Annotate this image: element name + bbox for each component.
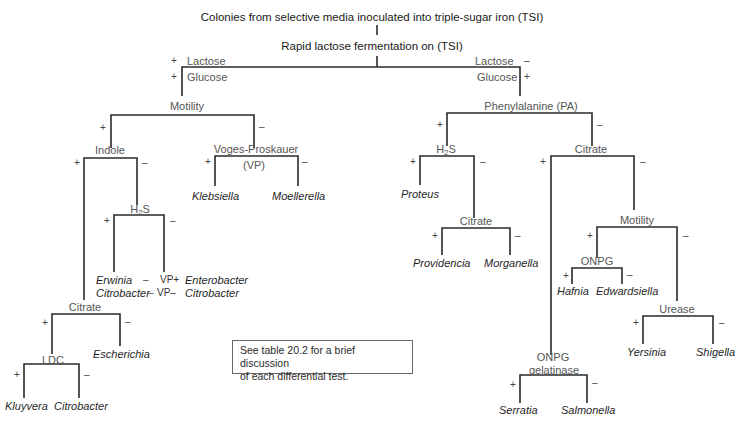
lactose-plus-sign: + — [171, 55, 177, 67]
vp-abbrev-label: (VP) — [243, 159, 265, 171]
vp-plus-sign: + — [205, 156, 211, 168]
glucose-plus-sign-right: + — [524, 71, 530, 83]
urease-plus-sign: + — [633, 317, 639, 329]
organism-salmonella: Salmonella — [561, 404, 615, 416]
motility-plus-sign: + — [100, 122, 106, 134]
indole-minus-sign: – — [142, 157, 148, 169]
diagram-subtitle: Rapid lactose fermentation on (TSI) — [281, 40, 463, 52]
organism-providencia: Providencia — [413, 257, 470, 269]
urease-minus-sign: – — [719, 317, 725, 329]
diagram-title: Colonies from selective media inoculated… — [201, 11, 544, 23]
vp-minus-sign: – — [302, 156, 308, 168]
citrate-right-minus-sign: – — [640, 156, 646, 168]
vp-plus-label: VP+ — [160, 274, 179, 286]
citrate-left-label: Citrate — [69, 301, 101, 313]
onpg-gelatinase-plus-sign: + — [510, 379, 516, 391]
voges-proskauer-label: Voges-Proskauer — [214, 143, 298, 155]
citrate-mid-plus-sign: + — [432, 230, 438, 242]
motility-left-label: Motility — [170, 100, 204, 112]
erwinia-minus-sign: – — [143, 274, 149, 286]
glucose-right-label: Glucose — [477, 71, 517, 83]
organism-kluyvera: Kluyvera — [5, 400, 48, 412]
h2s-right-minus-sign: – — [480, 156, 486, 168]
organism-erwinia: Erwinia — [96, 274, 132, 286]
onpg-plus-sign: + — [563, 270, 569, 282]
organism-edwardsiella: Edwardsiella — [596, 285, 658, 297]
pa-plus-sign: + — [437, 119, 443, 131]
h2s-left-label: H2S — [130, 203, 150, 215]
indole-plus-sign: + — [74, 157, 80, 169]
onpg-minus-sign: – — [627, 269, 633, 281]
organism-serratia: Serratia — [499, 404, 538, 416]
h2s-right-label: H2S — [436, 143, 456, 155]
motility-right-plus-sign: + — [587, 230, 593, 242]
citrate-right-label: Citrate — [575, 143, 607, 155]
note-line-2: of each differential test. — [240, 370, 405, 383]
onpg-gelatinase-label-2: gelatinase — [529, 364, 579, 376]
lactose-right-label: Lactose — [475, 55, 514, 67]
pa-minus-sign: – — [597, 119, 603, 131]
organism-hafnia: Hafnia — [557, 285, 589, 297]
citrate-left-plus-sign: + — [42, 317, 48, 329]
organism-citrobacter-vp: Citrobacter — [185, 287, 239, 299]
organism-citrobacter-ldc: Citrobacter — [54, 400, 108, 412]
lactose-minus-sign: – — [524, 55, 530, 67]
organism-moellerella: Moellerella — [272, 190, 325, 202]
onpg-gelatinase-minus-sign: – — [592, 377, 598, 389]
glucose-plus-sign: + — [171, 71, 177, 83]
vp-minus-label: VP– — [157, 287, 176, 299]
organism-escherichia: Escherichia — [93, 348, 150, 360]
phenylalanine-label: Phenylalanine (PA) — [484, 100, 577, 112]
glucose-left-label: Glucose — [187, 71, 227, 83]
note-box: See table 20.2 for a brief discussion of… — [232, 340, 413, 374]
organism-yersinia: Yersinia — [627, 346, 666, 358]
organism-morganella: Morganella — [484, 257, 538, 269]
organism-proteus: Proteus — [401, 188, 439, 200]
ldc-minus-sign: – — [84, 369, 90, 381]
motility-right-minus-sign: – — [683, 230, 689, 242]
organism-shigella: Shigella — [696, 346, 735, 358]
ldc-label: LDC — [42, 354, 64, 366]
h2s-left-plus-sign: + — [104, 215, 110, 227]
ldc-plus-sign: + — [14, 369, 20, 381]
motility-right-label: Motility — [620, 214, 654, 226]
citrate-left-minus-sign: – — [125, 316, 131, 328]
citrate-right-plus-sign: + — [540, 156, 546, 168]
citrate-mid-label: Citrate — [460, 215, 492, 227]
onpg-gelatinase-label-1: ONPG — [537, 351, 569, 363]
organism-klebsiella: Klebsiella — [192, 190, 239, 202]
h2s-left-minus-sign: – — [170, 215, 176, 227]
citrate-mid-minus-sign: – — [515, 230, 521, 242]
note-line-1: See table 20.2 for a brief discussion — [240, 344, 405, 370]
indole-label: Indole — [95, 144, 125, 156]
organism-citrobacter-h2s: Citrobacter — [96, 287, 150, 299]
h2s-right-plus-sign: + — [410, 156, 416, 168]
onpg-label: ONPG — [581, 255, 613, 267]
citrobacter-minus-sign: – — [148, 287, 154, 299]
organism-enterobacter: Enterobacter — [185, 274, 248, 286]
lactose-left-label: Lactose — [187, 55, 226, 67]
motility-minus-sign: – — [259, 121, 265, 133]
urease-label: Urease — [659, 303, 694, 315]
